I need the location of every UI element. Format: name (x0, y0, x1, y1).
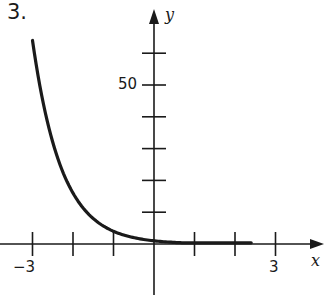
x-axis-label: x (311, 253, 320, 269)
function-curve (33, 40, 252, 242)
y-tick-label-50: 50 (118, 77, 137, 92)
x-tick-label-neg3: −3 (13, 260, 35, 275)
x-axis-arrow-icon (310, 239, 324, 249)
x-tick-label-3: 3 (269, 260, 279, 275)
y-axis-label: y (165, 7, 174, 23)
chart-plot (0, 0, 328, 295)
y-axis-arrow-icon (149, 9, 159, 24)
axes (0, 18, 316, 295)
